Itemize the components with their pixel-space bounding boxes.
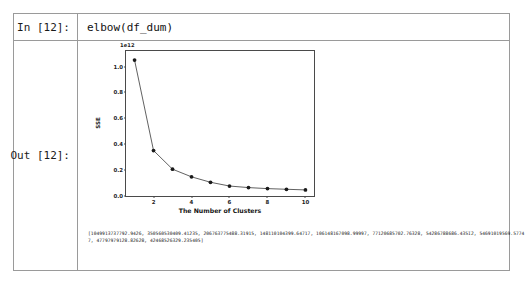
output-text-repr: [1049913737792.9426, 350560530409.41235,… — [88, 231, 526, 244]
y-axis-tick-mark — [124, 170, 126, 171]
y-axis-tick-label: 0.4 — [113, 141, 123, 147]
input-cell-row: In [12]: elbow(df_dum) — [14, 14, 509, 41]
output-prompt-cell: Out [12]: — [14, 41, 78, 270]
data-point-marker — [304, 188, 308, 192]
y-axis-tick-mark — [124, 196, 126, 197]
elbow-plot-figure: 1e12 SSE 0.00.20.40.60.81.0246810 The Nu… — [88, 41, 328, 227]
y-axis-title: SSE — [95, 117, 101, 129]
input-prompt-cell: In [12]: — [14, 14, 78, 40]
y-axis-tick-label: 0.6 — [113, 115, 123, 121]
data-point-marker — [209, 180, 213, 184]
data-point-marker — [190, 175, 194, 179]
x-axis-tick-label: 10 — [302, 199, 310, 205]
y-axis-tick-label: 1.0 — [113, 64, 123, 70]
input-prompt-label: In [12]: — [17, 21, 70, 34]
data-point-marker — [152, 149, 156, 153]
data-point-marker — [266, 187, 270, 191]
x-axis-tick-mark — [153, 196, 154, 198]
y-axis-tick-label: 0.0 — [113, 193, 123, 199]
y-axis-tick-label: 0.2 — [113, 167, 123, 173]
code-source-text[interactable]: elbow(df_dum) — [87, 21, 173, 34]
x-axis-tick-label: 8 — [266, 199, 270, 205]
notebook-cell-frame: In [12]: elbow(df_dum) Out [12]: 1e12 SS… — [13, 13, 510, 271]
x-axis-tick-mark — [191, 196, 192, 198]
y-axis-exponent-label: 1e12 — [120, 42, 135, 48]
output-prompt-label: Out [12]: — [10, 149, 70, 162]
x-axis-tick-mark — [305, 196, 306, 198]
x-axis-tick-mark — [229, 196, 230, 198]
series-line — [135, 60, 306, 190]
output-cell-row: Out [12]: 1e12 SSE 0.00.20.40.60.81.0246… — [14, 41, 509, 270]
y-axis-tick-mark — [124, 118, 126, 119]
data-point-marker — [285, 187, 289, 191]
data-point-marker — [247, 186, 251, 190]
data-point-marker — [133, 58, 137, 62]
plot-axes-frame: 0.00.20.40.60.81.0246810 — [125, 50, 315, 197]
y-axis-tick-mark — [124, 144, 126, 145]
output-stack: 1e12 SSE 0.00.20.40.60.81.0246810 The Nu… — [78, 41, 509, 270]
y-axis-tick-mark — [124, 92, 126, 93]
x-axis-title: The Number of Clusters — [125, 207, 315, 214]
elbow-line-series — [126, 51, 314, 196]
y-axis-tick-mark — [124, 66, 126, 67]
x-axis-tick-label: 6 — [228, 199, 232, 205]
data-point-marker — [171, 167, 175, 171]
output-content-cell: 1e12 SSE 0.00.20.40.60.81.0246810 The Nu… — [78, 41, 509, 270]
x-axis-tick-mark — [267, 196, 268, 198]
x-axis-tick-label: 4 — [190, 199, 194, 205]
x-axis-tick-label: 2 — [152, 199, 156, 205]
y-axis-tick-label: 0.8 — [113, 89, 123, 95]
input-code-cell[interactable]: elbow(df_dum) — [78, 14, 509, 40]
data-point-marker — [228, 184, 232, 188]
